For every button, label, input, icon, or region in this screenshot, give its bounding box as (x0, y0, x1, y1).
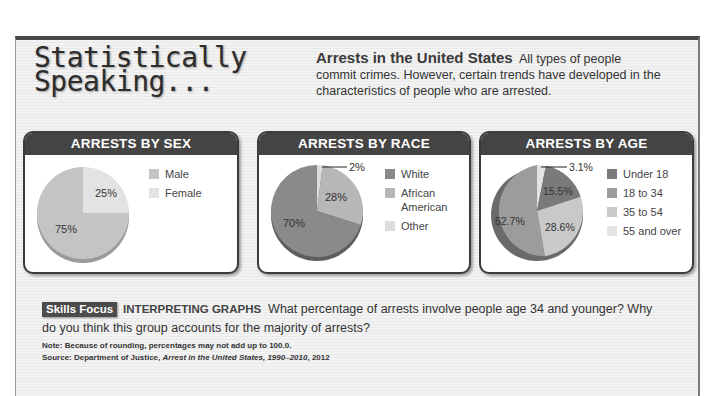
legend-item-55-and-over: 55 and over (607, 224, 681, 238)
swatch-icon (385, 169, 395, 179)
swatch-icon (607, 188, 617, 198)
legend-label: African American (401, 186, 461, 214)
notes: Note: Because of rounding, percentages m… (42, 340, 330, 364)
pie-chart-sex: 25% 75% (33, 163, 137, 267)
title-line-2: Speaking... (34, 65, 214, 98)
label-other: 2% (349, 161, 365, 173)
legend-item-18-to-34: 18 to 34 (607, 186, 681, 200)
feature-box: Statistically Speaking... Arrests in the… (15, 36, 700, 396)
legend-label: Female (165, 186, 202, 200)
chart-card-sex: ARRESTS BY SEX 25% 75% Male Female (23, 131, 239, 274)
legend-race: White African American Other (385, 167, 461, 238)
skills-focus-badge: Skills Focus (42, 302, 117, 317)
legend-label: 18 to 34 (623, 186, 663, 200)
legend-sex: Male Female (149, 167, 202, 205)
swatch-icon (607, 226, 617, 236)
legend-item-male: Male (149, 167, 202, 181)
swatch-icon (385, 188, 395, 198)
legend-age: Under 18 18 to 34 35 to 54 55 and over (607, 167, 681, 243)
chart-title-sex: ARRESTS BY SEX (25, 133, 237, 155)
legend-item-under-18: Under 18 (607, 167, 681, 181)
source-title: Arrest in the United States, 1990–2010 (162, 353, 307, 362)
label-18-to-34: 52.7% (495, 215, 525, 227)
label-under-18: 15.5% (543, 185, 573, 197)
rounding-note: Note: Because of rounding, percentages m… (42, 340, 330, 352)
swatch-icon (149, 188, 159, 198)
legend-label: White (401, 167, 429, 181)
chart-title-race: ARRESTS BY RACE (259, 133, 469, 155)
section-heading: Arrests in the United States (316, 49, 513, 66)
legend-item-female: Female (149, 186, 202, 200)
skills-caption: INTERPRETING GRAPHS (123, 303, 261, 315)
pie-chart-race: 2% 28% 70% (267, 161, 379, 269)
label-female: 25% (95, 187, 117, 199)
legend-item-african-american: African American (385, 186, 461, 214)
label-35-to-54: 28.6% (545, 221, 575, 233)
source-suffix: , 2012 (307, 353, 329, 362)
swatch-icon (607, 169, 617, 179)
legend-item-other: Other (385, 219, 461, 233)
source-line: Source: Department of Justice, Arrest in… (42, 352, 330, 364)
intro-paragraph: Arrests in the United States All types o… (316, 50, 661, 99)
legend-label: Under 18 (623, 167, 668, 181)
pie-chart-age: 3.1% 15.5% 52.7% 28.6% (487, 161, 603, 269)
label-55-and-over: 3.1% (569, 161, 593, 173)
legend-label: 55 and over (623, 224, 681, 238)
label-white: 70% (283, 217, 305, 229)
legend-item-white: White (385, 167, 461, 181)
feature-title: Statistically Speaking... (34, 46, 247, 94)
legend-label: 35 to 54 (623, 205, 663, 219)
label-male: 75% (55, 223, 77, 235)
chart-title-age: ARRESTS BY AGE (481, 133, 692, 155)
skills-focus: Skills FocusINTERPRETING GRAPHS What per… (42, 300, 662, 338)
source-prefix: Source: Department of Justice, (42, 353, 162, 362)
swatch-icon (385, 221, 395, 231)
chart-card-age: ARRESTS BY AGE 3.1% 15.5% 52.7% 28.6% Un… (479, 131, 694, 274)
label-african-american: 28% (325, 191, 347, 203)
swatch-icon (607, 207, 617, 217)
legend-item-35-to-54: 35 to 54 (607, 205, 681, 219)
legend-label: Male (165, 167, 189, 181)
swatch-icon (149, 169, 159, 179)
chart-card-race: ARRESTS BY RACE 2% 28% 70% White African… (257, 131, 471, 274)
legend-label: Other (401, 219, 429, 233)
